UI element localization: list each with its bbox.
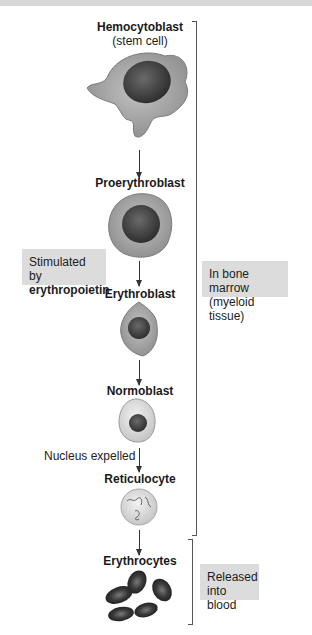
marrow-line2: (myeloid tissue): [209, 295, 254, 323]
stage-label-hemocytoblast: Hemocytoblast (stem cell): [90, 20, 190, 48]
bone-marrow-label-box: In bone marrow (myeloid tissue): [202, 261, 288, 297]
blood-line2: into blood: [207, 584, 236, 612]
erythroblast-cell-icon: [115, 300, 165, 358]
stage-label-erythrocytes: Erythrocytes: [90, 554, 190, 568]
nucleus-expelled-label: Nucleus expelled: [44, 449, 135, 463]
normoblast-cell-icon: [116, 398, 160, 444]
stage-label-erythroblast: Erythroblast: [90, 287, 190, 301]
arrow-1: [139, 150, 140, 178]
hemocytoblast-cell-icon: [85, 48, 195, 148]
stage-name: Reticulocyte: [104, 472, 175, 486]
arrow-3: [139, 360, 140, 385]
stage-name: Proerythroblast: [95, 176, 184, 190]
erythrocytes-cells-icon: [100, 570, 180, 625]
stage-subtitle: (stem cell): [112, 34, 167, 48]
released-into-blood-label-box: Released into blood: [200, 564, 259, 600]
marrow-line1: In bone marrow: [209, 267, 249, 295]
arrow-5: [139, 530, 140, 555]
stage-name: Normoblast: [107, 384, 174, 398]
top-strip: [0, 0, 312, 6]
reticulocyte-cell-icon: [119, 487, 159, 527]
blood-bracket: [188, 539, 193, 625]
proerythroblast-cell-icon: [105, 190, 175, 260]
stage-name: Erythroblast: [105, 287, 176, 301]
stimulus-line1: Stimulated by: [29, 255, 86, 283]
arrow-2: [139, 261, 140, 286]
stage-label-normoblast: Normoblast: [90, 384, 190, 398]
stage-label-proerythroblast: Proerythroblast: [90, 176, 190, 190]
stage-name: Erythrocytes: [103, 554, 176, 568]
stage-name: Hemocytoblast: [97, 20, 183, 34]
bone-marrow-bracket: [192, 21, 197, 536]
arrow-4: [139, 448, 140, 472]
erythropoietin-stimulus-box: Stimulated by erythropoietin: [22, 249, 106, 285]
stage-label-reticulocyte: Reticulocyte: [90, 472, 190, 486]
blood-line1: Released: [207, 570, 258, 584]
